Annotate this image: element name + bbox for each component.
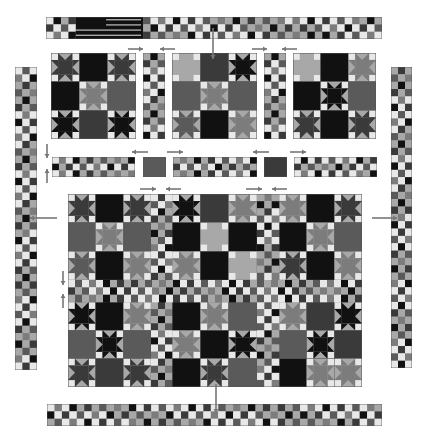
vert-arrow-1-icon bbox=[45, 144, 50, 158]
mid-arrow-1-icon bbox=[132, 150, 148, 155]
mid-arrow-3-icon bbox=[253, 150, 269, 155]
quilt-arrow-4-icon bbox=[272, 187, 287, 192]
vert-arrow-4-icon bbox=[61, 294, 66, 308]
quilt-arrow-3-icon bbox=[246, 187, 262, 192]
sash-arrow-1-icon bbox=[128, 47, 143, 52]
cornerstone-square bbox=[264, 157, 287, 177]
sash-arrow-4-icon bbox=[282, 47, 297, 52]
sash-arrow-3-icon bbox=[252, 47, 267, 52]
mid-arrow-2-icon bbox=[167, 150, 183, 155]
star-block-unit bbox=[172, 53, 257, 139]
cornerstone-square bbox=[143, 157, 166, 177]
mid-arrow-4-icon bbox=[290, 150, 306, 155]
left-border-strip bbox=[15, 67, 37, 370]
right-border-strip bbox=[391, 67, 412, 368]
star-block-unit bbox=[293, 53, 376, 139]
bottom-border-strip bbox=[47, 404, 382, 426]
sashing-strip-horizontal bbox=[294, 157, 377, 177]
sashing-strip-horizontal bbox=[173, 157, 257, 177]
top-border-strip bbox=[46, 17, 382, 39]
quilt-assembly-diagram bbox=[0, 0, 427, 435]
quilt-center bbox=[68, 194, 362, 387]
sashing-strip-vertical bbox=[264, 53, 286, 139]
sashing-strip-horizontal bbox=[52, 157, 135, 177]
vert-arrow-2-icon bbox=[45, 169, 50, 183]
quilt-arrow-1-icon bbox=[140, 187, 156, 192]
sash-arrow-2-icon bbox=[160, 47, 175, 52]
vert-arrow-3-icon bbox=[61, 271, 66, 285]
sashing-strip-vertical bbox=[143, 53, 165, 139]
quilt-arrow-2-icon bbox=[166, 187, 181, 192]
star-block-unit bbox=[51, 53, 136, 139]
